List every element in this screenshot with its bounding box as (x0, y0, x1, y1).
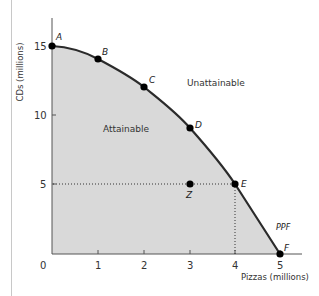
x-tick-3: 3 (187, 260, 193, 271)
x-tick-1: 1 (95, 260, 101, 271)
origin-label: 0 (40, 260, 46, 271)
label-z: Z (185, 190, 193, 200)
point-a (48, 42, 55, 49)
point-d (186, 124, 193, 131)
unattainable-label: Unattainable (187, 78, 245, 88)
label-c: C (149, 75, 156, 85)
y-axis-title: CDs (millions) (15, 43, 25, 102)
attainable-label: Attainable (103, 124, 150, 134)
point-z (186, 180, 193, 187)
point-e (231, 180, 238, 187)
ppf-chart: 0 1 2 3 4 5 5 10 15 Pizzas (millions) CD… (0, 0, 319, 296)
point-c (140, 83, 147, 90)
x-tick-5: 5 (277, 260, 283, 271)
label-b: B (102, 47, 108, 57)
x-tick-4: 4 (232, 260, 238, 271)
label-d: D (195, 120, 202, 130)
y-tick-15: 15 (34, 41, 47, 52)
ppf-label: PPF (276, 223, 291, 232)
point-f (276, 250, 283, 257)
x-axis-title: Pizzas (millions) (241, 272, 309, 282)
label-e: E (241, 179, 247, 189)
attainable-region (52, 46, 280, 254)
point-b (94, 55, 101, 62)
x-tick-2: 2 (141, 260, 147, 271)
label-f: F (284, 243, 290, 253)
y-tick-5: 5 (40, 179, 46, 190)
y-tick-10: 10 (34, 110, 47, 121)
label-a: A (55, 32, 62, 42)
